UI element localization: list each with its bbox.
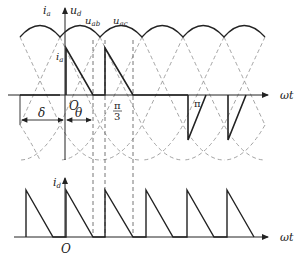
rectifier-waveform-diagram: ia ud uab uac ia O δ θ π 3 π ωt id O ωt (0, 0, 298, 258)
uab-label: uab (85, 15, 101, 28)
id-axis-label: id (53, 176, 62, 190)
ud-axis-label: ud (70, 4, 82, 18)
top-x-axis-label: ωt (280, 89, 294, 102)
delta-label: δ (38, 106, 45, 120)
theta-label: θ (75, 106, 83, 120)
pi-label: π (194, 98, 201, 109)
id-current-pulses (26, 190, 254, 237)
origin-label-bottom: O (61, 242, 71, 256)
ud-envelope (20, 26, 265, 38)
pi-over-3-den: 3 (114, 111, 120, 122)
pi-over-3-num: π (114, 100, 121, 111)
bottom-x-axis-label: ωt (280, 231, 294, 244)
ia-axis-label: ia (43, 4, 51, 18)
ia-current-label: ia (56, 51, 63, 64)
